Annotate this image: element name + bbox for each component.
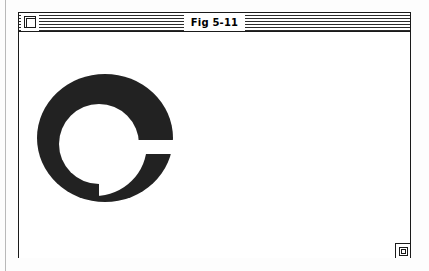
window-content-area[interactable] — [19, 32, 410, 258]
spiral-wedge-body — [19, 32, 410, 258]
spiral-wedge-figure — [19, 32, 410, 258]
grow-box-icon[interactable] — [395, 243, 410, 258]
page-margin-rule — [5, 0, 6, 271]
window-title-label: Fig 5-11 — [184, 14, 246, 31]
window-title-bar[interactable]: Fig 5-11 — [19, 13, 410, 32]
close-box-icon[interactable] — [24, 16, 36, 28]
mac-window[interactable]: Fig 5-11 — [18, 12, 411, 258]
window-title: Fig 5-11 — [19, 13, 410, 31]
grow-box-inner-square — [401, 249, 406, 254]
